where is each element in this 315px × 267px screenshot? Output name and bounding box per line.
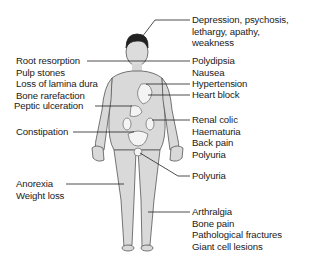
kidney-left [123, 118, 131, 130]
label-constipation: Constipation [16, 126, 68, 138]
label-polydipsia: Polydipsia Nausea [192, 55, 235, 78]
label-neuro: Depression, psychosis, lethargy, apathy,… [192, 14, 288, 49]
label-peptic-ulceration: Peptic ulceration [14, 100, 83, 112]
label-dental: Root resorption Pulp stones Loss of lami… [16, 55, 98, 101]
label-polyuria: Polyuria [192, 170, 226, 182]
bladder [134, 148, 142, 156]
label-renal: Renal colic Haematuria Back pain Polyuri… [192, 114, 241, 160]
label-hypertension: Hypertension [192, 78, 247, 90]
label-heart-block: Heart block [192, 89, 239, 101]
label-anorexia: Anorexia Weight loss [16, 178, 64, 201]
label-skeletal: Arthralgia Bone pain Pathological fractu… [192, 206, 282, 252]
